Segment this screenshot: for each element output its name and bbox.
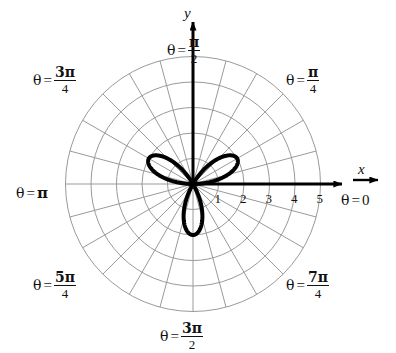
polar-plot-figure: θ=π2 θ=π4 θ=3π4 θ=π θ=0 θ=5π4 θ=7π4 θ=3π… [0, 0, 396, 353]
fraction-denominator: 4 [307, 81, 319, 96]
x-axis-label: x [358, 162, 365, 177]
fraction-numerator: π [188, 35, 200, 51]
theta-symbol: θ [341, 192, 349, 208]
fraction-numerator: 5π [54, 270, 76, 286]
theta-label-pi-over-2: θ=π2 [167, 36, 200, 67]
fraction-pi-over-4: π4 [307, 65, 319, 96]
theta-symbol: θ [33, 277, 41, 293]
equals-sign: = [170, 328, 178, 344]
fraction-numerator: π [307, 65, 319, 81]
fraction-denominator: 4 [54, 286, 76, 301]
grid-spoke-210deg [83, 184, 193, 248]
fraction-numerator: 3π [54, 65, 76, 81]
grid-spoke-240deg [129, 184, 193, 294]
fraction-numerator: 3π [181, 321, 203, 337]
fraction-3pi-over-2: 3π2 [181, 321, 203, 352]
grid-spoke-150deg [83, 120, 193, 184]
theta-label-3pi-over-4: θ=3π4 [33, 66, 76, 97]
grid-spoke-30deg [193, 120, 303, 184]
theta-symbol: θ [286, 72, 294, 88]
fraction-denominator: 4 [307, 286, 329, 301]
grid-spoke-135deg [103, 94, 193, 184]
fraction-pi-over-2: π2 [188, 35, 200, 66]
grid-spoke-120deg [129, 74, 193, 184]
fraction-denominator: 4 [54, 81, 76, 96]
equals-sign: = [177, 42, 185, 58]
theta-symbol: θ [286, 277, 294, 293]
x-tick-label-1: 1 [215, 192, 222, 205]
grid-spoke-165deg [70, 151, 193, 184]
fraction-denominator: 2 [188, 51, 200, 66]
equals-sign: = [296, 277, 304, 293]
grid-spoke-330deg [193, 184, 303, 248]
x-tick-label-2: 2 [240, 192, 247, 205]
theta-symbol: θ [167, 42, 175, 58]
zero-value: 0 [362, 192, 370, 208]
equals-sign: = [351, 192, 359, 208]
theta-label-pi: θ=π [16, 186, 48, 201]
fraction-5pi-over-4: 5π4 [54, 270, 76, 301]
equals-sign: = [296, 72, 304, 88]
fraction-denominator: 2 [181, 337, 203, 352]
theta-label-pi-over-4: θ=π4 [286, 66, 319, 97]
theta-symbol: θ [160, 328, 168, 344]
theta-label-5pi-over-4: θ=5π4 [33, 271, 76, 302]
theta-symbol: θ [33, 72, 41, 88]
theta-label-3pi-over-2: θ=3π2 [160, 322, 203, 353]
grid-spoke-225deg [103, 184, 193, 274]
theta-label-0: θ=0 [341, 193, 369, 208]
equals-sign: = [26, 185, 34, 201]
grid-spoke-285deg [193, 184, 226, 307]
fraction-7pi-over-4: 7π4 [307, 270, 329, 301]
fraction-3pi-over-4: 3π4 [54, 65, 76, 96]
x-tick-label-4: 4 [291, 192, 298, 205]
grid-spoke-255deg [160, 184, 193, 307]
x-tick-label-3: 3 [266, 192, 273, 205]
equals-sign: = [43, 277, 51, 293]
grid-spoke-195deg [70, 184, 193, 217]
x-tick-label-5: 5 [317, 192, 324, 205]
y-axis-label: y [184, 6, 191, 21]
theta-symbol: θ [16, 185, 24, 201]
fraction-numerator: 7π [307, 270, 329, 286]
pi-symbol: π [37, 184, 48, 202]
grid-spoke-45deg [193, 94, 283, 184]
equals-sign: = [43, 72, 51, 88]
theta-label-7pi-over-4: θ=7π4 [286, 271, 329, 302]
grid-spoke-60deg [193, 74, 257, 184]
grid-spoke-15deg [193, 151, 316, 184]
grid-spoke-300deg [193, 184, 257, 294]
